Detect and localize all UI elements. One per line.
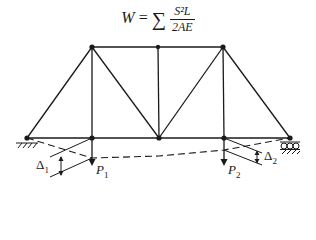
load-p2-label: P2 <box>228 162 240 180</box>
delta1-label: Δ1 <box>36 157 49 175</box>
roller-support-icon <box>280 142 300 154</box>
p1-symbol: P <box>96 162 104 177</box>
delta2-label: Δ2 <box>264 148 277 166</box>
truss-members <box>27 47 290 138</box>
load-p1-arrow-icon <box>89 140 96 166</box>
delta1-subscript: 1 <box>44 165 49 175</box>
delta2-subscript: 2 <box>272 156 277 166</box>
delta2-dimension <box>224 138 262 165</box>
load-p1-label: P1 <box>96 162 108 180</box>
p2-subscript: 2 <box>236 170 241 180</box>
pin-support-icon <box>16 143 38 148</box>
load-p2-arrow-icon <box>221 140 228 166</box>
delta1-dimension <box>50 138 92 177</box>
p1-subscript: 1 <box>104 170 109 180</box>
p2-symbol: P <box>228 162 236 177</box>
